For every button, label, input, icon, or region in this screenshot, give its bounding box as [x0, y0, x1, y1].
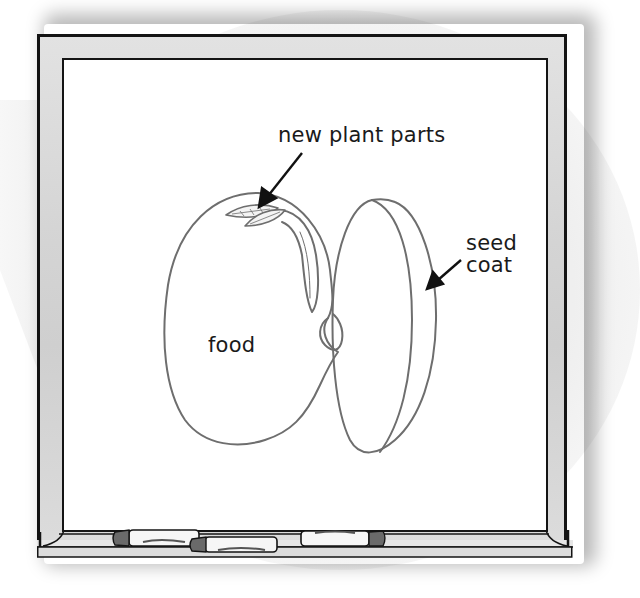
label-seed-coat-line2: coat [466, 254, 517, 276]
label-food: food [208, 334, 255, 356]
seed-coat-inner-edge [372, 200, 412, 452]
label-seed-coat-line1: seed [466, 232, 517, 254]
arrow-new-plant-parts [268, 153, 302, 196]
seed-coat-outer [333, 199, 437, 452]
label-seed-coat: seed coat [466, 232, 517, 276]
arrow-seed-coat [438, 260, 461, 280]
embryo-leaves [226, 205, 285, 226]
cotyledon-food [164, 193, 338, 444]
label-new-plant-parts: new plant parts [278, 124, 445, 146]
